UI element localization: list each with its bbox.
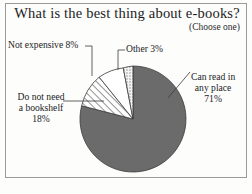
slice-label-can-read-in-any-place: Can read in any place 71% — [191, 72, 235, 104]
slice-label-not-expensive-text: Not expensive 8% — [8, 40, 78, 51]
slice-label-not-expensive: Not expensive 8% — [8, 40, 78, 51]
instruction-note: (Choose one) — [189, 22, 240, 32]
slice-label-bookshelf-value: 18% — [8, 114, 74, 125]
slice-label-other: Other 3% — [126, 44, 163, 55]
slice-label-bookshelf-line-2: a bookshelf — [8, 103, 74, 114]
slice-label-other-text: Other 3% — [126, 44, 163, 55]
pie-chart-figure: What is the best thing about e-books? (C… — [0, 0, 252, 194]
page-title: What is the best thing about e-books? — [12, 5, 242, 22]
slice-label-do-not-need-a-bookshelf: Do not need a bookshelf 18% — [8, 92, 74, 124]
slice-label-can-read-line-2: any place — [191, 83, 235, 94]
slice-label-can-read-value: 71% — [191, 94, 235, 105]
